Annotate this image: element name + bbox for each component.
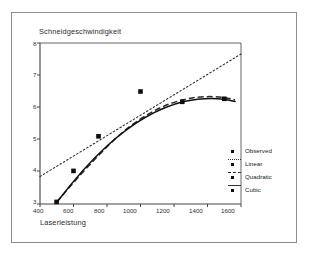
legend-sample-linear [228,159,241,165]
chart-card-border: Schneidgeschwindigkeit Laserleistung 8 7… [11,12,297,243]
legend-marker-square [231,150,234,153]
legend-sample-observed [228,146,241,151]
series-line-quadratic [57,97,235,202]
chart-plot-area: Schneidgeschwindigkeit Laserleistung 8 7… [12,13,298,244]
legend-item-cubic: Cubic [228,184,298,197]
legend-sample-quadratic [228,172,241,178]
data-point [71,169,76,174]
legend-item-linear: Linear [228,158,298,171]
legend-label-linear: Linear [245,160,262,167]
data-point [138,89,143,94]
legend-item-observed: Observed [228,145,298,158]
legend-marker-square [231,176,234,179]
data-point [222,97,227,102]
series-line-linear [40,54,241,177]
legend-label-observed: Observed [245,147,272,154]
data-point [54,200,59,205]
series-markers-observed [54,89,226,204]
chart-legend: Observed Linear Quadratic Cubic [228,145,298,197]
legend-item-quadratic: Quadratic [228,171,298,184]
legend-sample-cubic [228,185,241,191]
legend-marker-square [231,189,234,192]
figure-root: Schneidgeschwindigkeit Laserleistung 8 7… [0,0,313,260]
legend-label-cubic: Cubic [245,186,261,193]
data-point [180,100,185,105]
legend-label-quadratic: Quadratic [245,173,272,180]
legend-marker-square [231,163,234,166]
plot-graphics [12,13,298,244]
data-point [96,134,101,139]
